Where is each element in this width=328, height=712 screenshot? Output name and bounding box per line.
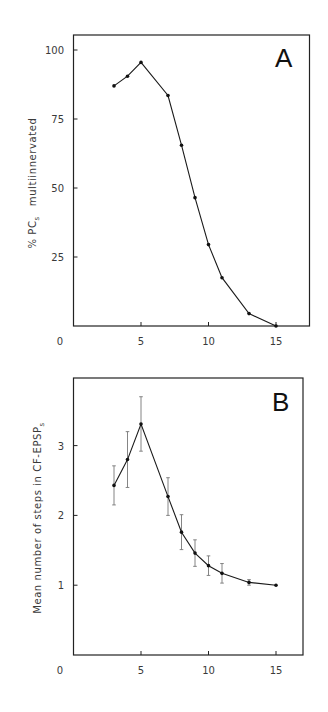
data-point bbox=[193, 551, 197, 555]
x-tick-label: 5 bbox=[138, 665, 144, 676]
panel-b-letter: B bbox=[272, 387, 289, 417]
y-tick-label: 2 bbox=[58, 510, 64, 521]
panel-b-y-ticks: 123 bbox=[58, 441, 78, 592]
panel-a-series bbox=[112, 61, 278, 328]
panel-b-plot-frame bbox=[74, 378, 304, 655]
data-point bbox=[207, 243, 211, 247]
panel-a-letter: A bbox=[275, 43, 293, 73]
y-tick-label: 100 bbox=[45, 45, 64, 56]
panel-a-ylabel-rest: multiinnervated bbox=[27, 117, 38, 206]
x-tick-label: 0 bbox=[57, 665, 63, 676]
y-tick-label: 75 bbox=[51, 114, 64, 125]
series-line bbox=[114, 62, 276, 326]
data-point bbox=[193, 196, 197, 200]
data-point bbox=[139, 422, 143, 426]
data-point bbox=[247, 581, 251, 585]
panel-a-chart: 255075100 051015 A % PCsmultiinnervated bbox=[27, 35, 310, 347]
data-point bbox=[112, 484, 116, 488]
data-point bbox=[139, 61, 143, 65]
panel-b-y-axis-label: Mean number of steps in CF-EPSPs bbox=[32, 422, 46, 614]
panel-b-error-bars bbox=[112, 397, 251, 585]
data-point bbox=[166, 94, 170, 98]
panel-b-ylabel-main: Mean number of steps in CF-EPSP bbox=[32, 426, 43, 613]
figure: 255075100 051015 A % PCsmultiinnervated … bbox=[0, 0, 328, 712]
data-point bbox=[126, 458, 130, 462]
panel-a-y-ticks: 255075100 bbox=[45, 45, 78, 263]
y-tick-label: 25 bbox=[51, 252, 64, 263]
data-point bbox=[207, 564, 211, 568]
data-point bbox=[274, 324, 278, 328]
x-tick-label: 10 bbox=[202, 665, 215, 676]
data-point bbox=[112, 84, 116, 88]
data-point bbox=[166, 495, 170, 499]
data-point bbox=[180, 143, 184, 147]
x-tick-label: 0 bbox=[57, 336, 63, 347]
x-tick-label: 15 bbox=[270, 665, 283, 676]
data-point bbox=[126, 74, 130, 78]
panel-a-plot-frame bbox=[74, 35, 310, 326]
panel-a-ylabel-sub: s bbox=[33, 216, 41, 220]
panel-b-ylabel-sub: s bbox=[38, 422, 46, 426]
data-point bbox=[220, 276, 224, 280]
x-tick-label: 10 bbox=[202, 336, 215, 347]
data-point bbox=[274, 583, 278, 587]
y-tick-label: 1 bbox=[58, 580, 64, 591]
panel-b-chart: 123 051015 B Mean number of steps in CF-… bbox=[32, 378, 303, 676]
panel-a-ylabel-main: % PC bbox=[27, 220, 38, 248]
data-point bbox=[247, 312, 251, 316]
x-tick-label: 5 bbox=[138, 336, 144, 347]
x-tick-label: 15 bbox=[270, 336, 283, 347]
data-point bbox=[180, 530, 184, 534]
y-tick-label: 50 bbox=[51, 183, 64, 194]
panel-a-y-axis-label: % PCsmultiinnervated bbox=[27, 117, 41, 248]
y-tick-label: 3 bbox=[58, 441, 64, 452]
data-point bbox=[220, 572, 224, 576]
